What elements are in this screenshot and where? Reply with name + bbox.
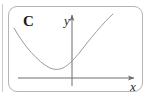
figure-screenshot: C y x [0, 0, 155, 97]
x-axis-label: x [130, 80, 136, 93]
y-axis-label: y [64, 14, 70, 27]
plot-svg [8, 6, 143, 92]
coordinate-plot: y x [8, 6, 143, 92]
page-edge-rule [2, 4, 3, 92]
